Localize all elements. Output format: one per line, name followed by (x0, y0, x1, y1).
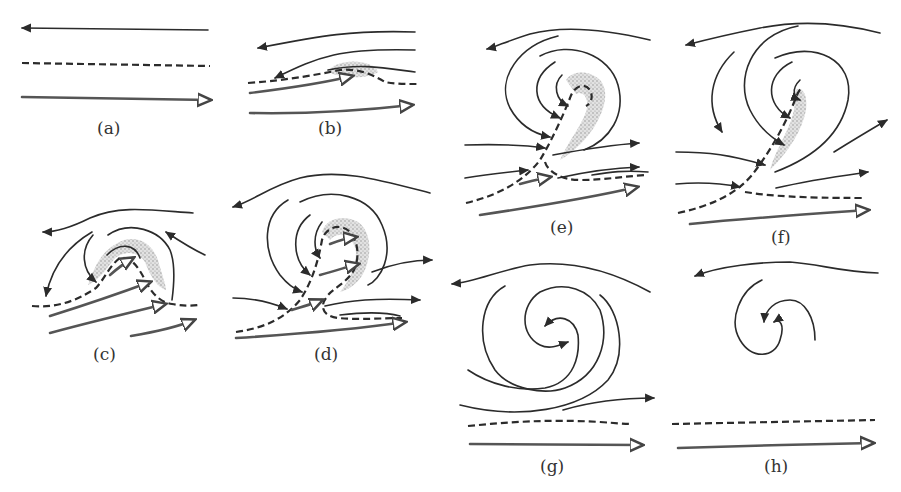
warm-air-arrow (50, 304, 165, 333)
warm-air-arrow (690, 210, 868, 224)
streamline (296, 215, 310, 275)
warm-air-arrow (520, 177, 550, 184)
streamline (563, 398, 654, 410)
warm-air-arrow (480, 187, 637, 215)
cyclone-development-diagram: (a) (b) (c) (0, 0, 901, 492)
panel-a: (a) (22, 28, 210, 138)
warm-air-arrow (22, 97, 210, 100)
panel-label-e: (e) (550, 217, 573, 237)
streamline-westward (22, 28, 208, 30)
panel-label-f: (f) (771, 227, 791, 247)
panel-c: (c) (32, 210, 205, 365)
streamline (43, 210, 193, 233)
warm-air-arrow (250, 105, 412, 113)
streamline (775, 51, 849, 172)
frontal-line (22, 63, 210, 66)
streamline (676, 183, 740, 187)
panel-h: (h) (672, 262, 878, 476)
panel-label-g: (g) (540, 456, 564, 476)
panel-f: (f) (676, 23, 887, 247)
streamline (834, 120, 887, 152)
streamline (735, 280, 782, 354)
streamline (258, 32, 415, 48)
panel-g: (g) (452, 264, 654, 476)
streamline (695, 262, 878, 276)
panel-b: (b) (248, 32, 418, 138)
warm-air-arrow (131, 320, 194, 336)
streamline (686, 23, 880, 45)
panel-e: (e) (465, 29, 650, 237)
panel-label-h: (h) (764, 456, 788, 476)
warm-air-arrow (250, 76, 352, 93)
warm-air-arrow (236, 322, 405, 338)
streamline (465, 145, 545, 148)
frontal-line (468, 421, 632, 426)
streamline (465, 170, 528, 178)
warm-air-arrow (110, 258, 133, 275)
panel-label-b: (b) (318, 118, 342, 138)
streamline (676, 152, 765, 165)
streamline (771, 62, 792, 118)
streamline (325, 299, 420, 306)
cloud-region (770, 89, 806, 170)
streamline (468, 318, 578, 389)
panel-d: (d) (233, 174, 432, 364)
frontal-line (672, 420, 875, 424)
streamline (487, 29, 650, 49)
streamline (764, 300, 815, 340)
streamline (233, 298, 287, 309)
panel-label-a: (a) (97, 118, 120, 138)
streamline (340, 313, 400, 316)
streamline (233, 174, 430, 207)
streamline (267, 200, 302, 292)
panel-label-d: (d) (314, 344, 338, 364)
warm-air-arrow (470, 444, 642, 445)
warm-air-arrow (678, 443, 873, 448)
panel-label-c: (c) (93, 344, 116, 364)
frontal-line (236, 227, 402, 332)
streamline (372, 260, 432, 272)
streamline (483, 286, 604, 391)
streamline (712, 52, 734, 132)
streamline (776, 172, 868, 188)
streamline (166, 232, 205, 255)
streamline (460, 295, 620, 412)
